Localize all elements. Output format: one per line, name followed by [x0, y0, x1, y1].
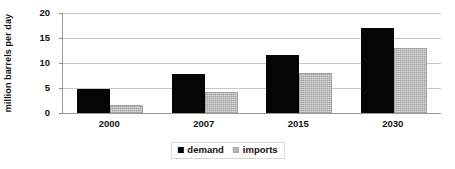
y-axis-tickmark — [59, 88, 63, 89]
y-axis-tickmark — [59, 113, 63, 114]
bar-imports-2000 — [110, 105, 143, 113]
y-axis-tickmark — [59, 13, 63, 14]
y-axis-tick-label: 10 — [39, 58, 50, 68]
legend-item-imports: imports — [233, 145, 278, 155]
y-axis-title-label: million barrels per day — [3, 14, 13, 112]
y-axis-title: million barrels per day — [0, 0, 16, 126]
y-axis-tick-label: 0 — [45, 108, 50, 118]
x-axis-tick-label: 2007 — [193, 118, 214, 129]
y-axis-tick-label: 20 — [39, 8, 50, 18]
bars-layer — [63, 13, 441, 113]
x-axis-tick-label: 2030 — [382, 118, 403, 129]
x-axis-tick-labels: 2000200720152030 — [62, 118, 440, 134]
bar-imports-2015 — [299, 73, 332, 114]
plot-area — [62, 13, 441, 114]
bar-demand-2000 — [77, 89, 110, 113]
bar-demand-2015 — [266, 55, 299, 114]
bar-group — [77, 13, 143, 113]
y-axis-tick-label: 15 — [39, 33, 50, 43]
y-axis-tickmark — [59, 38, 63, 39]
legend-label: demand — [187, 145, 223, 155]
black-square-swatch — [177, 147, 183, 153]
y-axis-tickmark — [59, 63, 63, 64]
bar-demand-2030 — [361, 28, 394, 113]
gray-square-swatch — [233, 147, 239, 153]
legend-label: imports — [243, 145, 278, 155]
x-axis-tick-label: 2015 — [288, 118, 309, 129]
y-axis-tick-labels: 05101520 — [18, 0, 54, 126]
bar-group — [172, 13, 238, 113]
bar-demand-2007 — [172, 74, 205, 113]
y-axis-tick-label: 5 — [45, 83, 50, 93]
bar-imports-2030 — [394, 48, 427, 113]
x-axis-tick-label: 2000 — [99, 118, 120, 129]
bar-group — [361, 13, 427, 113]
bar-chart: million barrels per day 05101520 2000200… — [0, 0, 455, 169]
bar-imports-2007 — [205, 92, 238, 113]
bar-group — [266, 13, 332, 113]
legend-item-demand: demand — [177, 145, 223, 155]
chart-legend: demandimports — [170, 142, 284, 159]
